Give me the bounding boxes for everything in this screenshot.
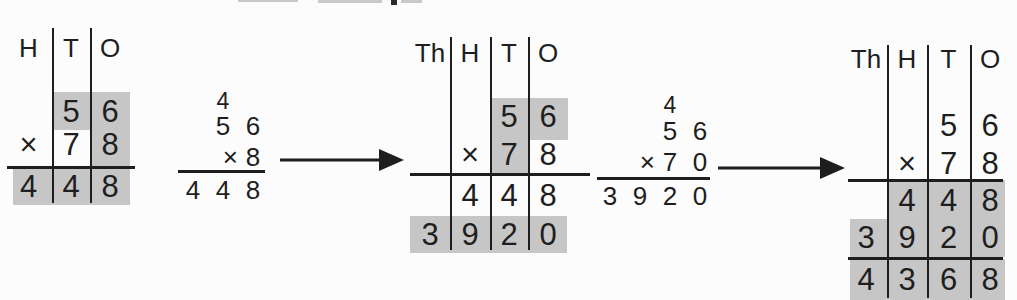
- digit-cell: [887, 107, 927, 144]
- product-rule: [848, 179, 1003, 182]
- step-arrow-2: [716, 153, 846, 183]
- row-multiplicand: 5 6: [5, 93, 130, 130]
- digit-cell: 4: [927, 182, 970, 219]
- digit-cell: 6: [90, 93, 130, 130]
- digit-cell: 3: [410, 216, 450, 253]
- digit-cell: 5: [490, 98, 528, 135]
- digit-cell: [178, 113, 208, 139]
- step-arrow-1: [278, 146, 406, 174]
- digit-cell: 4: [845, 261, 887, 298]
- row-partial-448: 4 4 8: [845, 182, 1010, 219]
- digit-cell: [595, 149, 625, 175]
- working-56x8: 4 5 6 × 8 4 4 8: [178, 85, 270, 210]
- digit-cell: 6: [970, 107, 1010, 144]
- carry-row: 4: [595, 92, 715, 118]
- digit-cell: [178, 88, 208, 114]
- product-row: 4 4 8: [178, 177, 268, 203]
- digit-cell: 8: [970, 261, 1010, 298]
- digit-cell: 0: [685, 149, 715, 175]
- col-header-ones: O: [90, 37, 130, 59]
- digit-cell: 4: [5, 168, 52, 205]
- scanned-math-page: H T O 5 6 × 7 8 4 4 8 4 5 6: [0, 0, 1017, 300]
- digit-cell: [595, 92, 625, 118]
- digit-cell: [450, 98, 490, 135]
- row-multiplicand: 5 6: [410, 98, 568, 135]
- digit-cell: 4: [208, 177, 238, 203]
- multiply-sign: ×: [625, 149, 655, 175]
- digit-cell: 9: [625, 183, 655, 209]
- digit-cell: [845, 182, 887, 219]
- multiplier-row: × 7 0: [595, 149, 715, 175]
- cropped-text-remnant: [391, 0, 397, 5]
- place-value-chart-1: H T O 5 6 × 7 8 4 4 8: [5, 25, 137, 210]
- digit-cell: 8: [90, 126, 130, 163]
- row-multiplicand: 5 6: [845, 107, 1010, 144]
- digit-cell: [410, 177, 450, 214]
- cropped-text-remnant: [401, 0, 422, 3]
- col-header-ones: O: [970, 48, 1010, 70]
- digit-cell: 6: [685, 118, 715, 144]
- column-headers: H T O: [5, 37, 130, 59]
- row-partial-3920: 3 9 2 0: [845, 219, 1010, 256]
- digit-cell: 7: [490, 136, 528, 173]
- col-header-tens: T: [490, 42, 528, 64]
- col-header-tens: T: [927, 48, 970, 70]
- digit-cell: 5: [927, 107, 970, 144]
- column-headers: Th H T O: [410, 42, 568, 64]
- multiply-sign: ×: [5, 126, 52, 163]
- digit-cell: 3: [595, 183, 625, 209]
- product-row: 3 9 2 0: [595, 183, 715, 209]
- digit-cell: 4: [887, 182, 927, 219]
- digit-cell: 3: [887, 261, 927, 298]
- digit-cell: [5, 93, 52, 130]
- col-header-thousands: Th: [845, 48, 887, 70]
- row-total-4368: 4 3 6 8: [845, 261, 1010, 298]
- digit-cell: [410, 98, 450, 135]
- row-product: 4 4 8: [5, 168, 130, 205]
- total-rule: [848, 257, 1003, 260]
- digit-cell: [685, 92, 715, 118]
- digit-cell: [625, 118, 655, 144]
- product-rule: [7, 166, 135, 169]
- digit-cell: 5: [208, 113, 238, 139]
- digit-cell: 8: [90, 168, 130, 205]
- multiplicand-row: 5 6: [178, 113, 268, 139]
- digit-cell: [845, 107, 887, 144]
- col-header-ones: O: [528, 42, 568, 64]
- multiply-sign: ×: [208, 144, 238, 170]
- digit-cell: 0: [685, 183, 715, 209]
- digit-cell: 6: [927, 261, 970, 298]
- digit-cell: 2: [655, 183, 685, 209]
- product-rule: [597, 177, 710, 180]
- digit-cell: 8: [528, 177, 568, 214]
- product-rule: [178, 170, 265, 173]
- col-header-thousands: Th: [410, 42, 450, 64]
- digit-cell: 0: [528, 216, 568, 253]
- digit-cell: 5: [52, 93, 90, 130]
- digit-cell: 3: [845, 219, 887, 256]
- digit-cell: [410, 136, 450, 173]
- digit-cell: 4: [450, 177, 490, 214]
- digit-cell: [625, 92, 655, 118]
- col-header-tens: T: [52, 37, 90, 59]
- place-value-chart-3: Th H T O 5 6 × 7 8 4 4 8 3 9 2 0: [845, 43, 1010, 300]
- digit-cell: 2: [490, 216, 528, 253]
- digit-cell: 7: [655, 149, 685, 175]
- digit-cell: 8: [970, 182, 1010, 219]
- digit-cell: 6: [528, 98, 568, 135]
- row-partial-448: 4 4 8: [410, 177, 568, 214]
- digit-cell: 6: [238, 113, 268, 139]
- col-header-hundreds: H: [5, 37, 52, 59]
- digit-cell: 8: [238, 177, 268, 203]
- row-partial-3920: 3 9 2 0: [410, 216, 568, 253]
- digit-cell: 9: [450, 216, 490, 253]
- digit-cell: 7: [52, 126, 90, 163]
- row-multiplier: × 7 8: [410, 136, 568, 173]
- digit-cell: 0: [970, 219, 1010, 256]
- digit-cell: 8: [238, 144, 268, 170]
- digit-cell: [595, 118, 625, 144]
- column-headers: Th H T O: [845, 48, 1010, 70]
- multiply-sign: ×: [887, 145, 927, 182]
- working-56x70: 4 5 6 × 7 0 3 9 2 0: [595, 88, 715, 210]
- carry-digit: 4: [655, 92, 685, 118]
